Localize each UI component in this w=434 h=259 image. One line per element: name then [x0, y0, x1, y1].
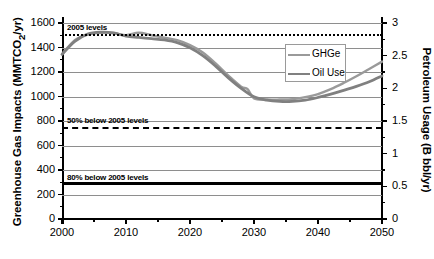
- y-tick-right-minor: [382, 39, 385, 40]
- x-tick-minor: [285, 219, 286, 222]
- y-tick-right-minor: [382, 104, 385, 105]
- y-tick-right-minor: [382, 169, 385, 170]
- x-tick: [381, 219, 382, 224]
- x-tick-minor: [157, 219, 158, 222]
- y-tick-right: [382, 186, 387, 187]
- y-tick-label-left: 1600: [15, 16, 55, 28]
- y-tick-right: [382, 120, 387, 121]
- x-tick: [61, 219, 62, 224]
- y-tick-label-right: 0: [392, 212, 432, 224]
- reference-label-50pct: 50% below 2005 levels: [67, 116, 148, 125]
- x-tick-minor: [349, 219, 350, 222]
- reference-line-50pct: [62, 127, 382, 129]
- legend-item-ghge[interactable]: GHGe: [286, 45, 347, 64]
- x-tick: [189, 219, 190, 224]
- x-tick-label: 2050: [359, 226, 405, 238]
- y-tick-label-left: 1000: [15, 90, 55, 102]
- chart-legend[interactable]: GHGe Oil Use: [285, 44, 346, 82]
- ghg-petroleum-chart: Greenhouse Gas Impacts (MMTCO2/yr) Petro…: [0, 0, 434, 259]
- legend-swatch-ghge: [288, 54, 310, 57]
- y-tick-right: [382, 55, 387, 56]
- y-tick-right-minor: [382, 71, 385, 72]
- reference-label-80pct: 80% below 2005 levels: [67, 173, 148, 182]
- y-tick-right-minor: [382, 202, 385, 203]
- y-tick-label-right: 2.5: [392, 49, 432, 61]
- x-tick-label: 2030: [231, 226, 277, 238]
- x-tick: [317, 219, 318, 224]
- y-tick-label-left: 600: [15, 139, 55, 151]
- y-tick-label-right: 1: [392, 147, 432, 159]
- y-tick-label-right: 2: [392, 81, 432, 93]
- x-tick-minor: [221, 219, 222, 222]
- y-tick-label-right: 1.5: [392, 114, 432, 126]
- y-tick-label-left: 1400: [15, 41, 55, 53]
- x-tick-label: 2010: [103, 226, 149, 238]
- x-tick-label: 2000: [39, 226, 85, 238]
- y-tick-right: [382, 153, 387, 154]
- y-tick-label-left: 400: [15, 163, 55, 175]
- y-tick-right: [382, 218, 387, 219]
- reference-line-80pct: [62, 182, 382, 185]
- y-tick-label-left: 200: [15, 188, 55, 200]
- x-tick-label: 2020: [167, 226, 213, 238]
- legend-item-oil-use[interactable]: Oil Use: [286, 64, 347, 83]
- y-tick-label-right: 3: [392, 16, 432, 28]
- y-tick-label-right: 0.5: [392, 179, 432, 191]
- x-tick: [253, 219, 254, 224]
- y-tick-label-left: 0: [15, 212, 55, 224]
- y-tick-right: [382, 22, 387, 23]
- reference-line-2005: [62, 34, 382, 36]
- y-tick-label-left: 800: [15, 114, 55, 126]
- legend-swatch-oil-use: [288, 73, 310, 76]
- x-tick: [125, 219, 126, 224]
- reference-label-2005: 2005 levels: [67, 23, 107, 32]
- y-tick-right: [382, 88, 387, 89]
- legend-label-oil-use: Oil Use: [312, 67, 345, 78]
- y-tick-label-left: 1200: [15, 65, 55, 77]
- x-tick-label: 2040: [295, 226, 341, 238]
- x-tick-minor: [93, 219, 94, 222]
- legend-label-ghge: GHGe: [312, 48, 340, 59]
- y-tick-right-minor: [382, 137, 385, 138]
